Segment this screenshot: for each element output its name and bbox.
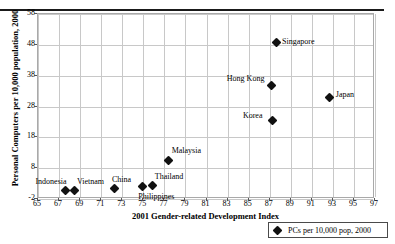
data-point-label: Thailand	[155, 172, 183, 181]
x-tickmark	[227, 198, 228, 201]
scatter-chart: -281828384858 65676971737577798183858789…	[0, 0, 395, 244]
plot-area	[37, 13, 374, 198]
x-tickmark	[184, 198, 185, 201]
x-tickmark	[100, 198, 101, 201]
data-point-label: Hong Kong	[227, 74, 265, 83]
y-tickmark	[34, 13, 37, 14]
gridline-vertical	[38, 14, 39, 197]
legend-label: PCs per 10,000 pop, 2000	[288, 226, 371, 235]
x-tickmark	[311, 198, 312, 201]
data-point-label: Indonesia	[35, 177, 66, 186]
data-point-label: Malaysia	[172, 146, 201, 155]
gridline-horizontal	[38, 107, 373, 108]
x-tickmark	[353, 198, 354, 201]
x-tickmark	[374, 198, 375, 201]
gridline-vertical	[101, 14, 102, 197]
x-tickmark	[206, 198, 207, 201]
x-tickmark	[332, 198, 333, 201]
gridline-vertical	[228, 14, 229, 197]
x-tickmark	[37, 198, 38, 201]
gridline-horizontal	[38, 168, 373, 169]
gridline-horizontal	[38, 45, 373, 46]
data-point-label: Singapore	[282, 37, 314, 46]
data-point-label: China	[112, 175, 131, 184]
x-tickmark	[269, 198, 270, 201]
data-point-label: Japan	[336, 90, 354, 99]
x-tickmark	[248, 198, 249, 201]
chart-legend: PCs per 10,000 pop, 2000	[268, 222, 388, 238]
gridline-vertical	[354, 14, 355, 197]
gridline-vertical	[122, 14, 123, 197]
gridline-vertical	[143, 14, 144, 197]
gridline-vertical	[333, 14, 334, 197]
legend-diamond-icon	[273, 225, 283, 235]
data-point-label: Philippines	[138, 192, 174, 201]
gridline-vertical	[207, 14, 208, 197]
gridline-vertical	[270, 14, 271, 197]
y-tickmark	[34, 136, 37, 137]
data-point-label: Korea	[243, 111, 263, 120]
gridline-horizontal	[38, 137, 373, 138]
gridline-vertical	[185, 14, 186, 197]
y-tickmark	[34, 106, 37, 107]
x-tickmark	[290, 198, 291, 201]
x-tickmark	[58, 198, 59, 201]
gridline-vertical	[59, 14, 60, 197]
gridline-vertical	[249, 14, 250, 197]
gridline-vertical	[164, 14, 165, 197]
y-tickmark	[34, 44, 37, 45]
y-tickmark	[34, 198, 37, 199]
y-tickmark	[34, 167, 37, 168]
data-point-label: Vietnam	[77, 177, 104, 186]
gridline-horizontal	[38, 76, 373, 77]
y-axis-title: Personal Computers per 10,000 population…	[10, 8, 20, 188]
gridline-vertical	[375, 14, 376, 197]
header-divider	[0, 9, 384, 11]
y-tickmark	[34, 75, 37, 76]
x-tickmark	[79, 198, 80, 201]
gridline-vertical	[80, 14, 81, 197]
x-axis-title: 2001 Gender-related Development Index	[37, 211, 374, 221]
x-tickmark	[121, 198, 122, 201]
gridline-horizontal	[38, 14, 373, 15]
